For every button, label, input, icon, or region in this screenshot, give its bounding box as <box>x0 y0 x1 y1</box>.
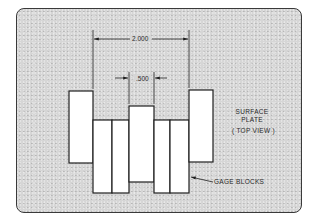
surface-plate-label: SURFACE PLATE ( TOP VIEW ) <box>232 108 272 135</box>
gage-blocks <box>69 90 213 193</box>
top-view-label: ( TOP VIEW ) <box>232 127 272 135</box>
left-outer-block <box>69 91 93 163</box>
right-outer-block <box>189 90 213 162</box>
surface-plate-label-line2: PLATE <box>232 116 272 124</box>
gage-blocks-leader <box>191 177 213 182</box>
right-block-2 <box>170 120 189 193</box>
left-block-3 <box>112 120 129 193</box>
right-block-3 <box>154 120 170 193</box>
surface-plate-label-line1: SURFACE <box>232 108 272 116</box>
gage-block-diagram <box>0 0 320 224</box>
center-block <box>129 106 154 182</box>
dimension-500: .500 <box>134 75 151 82</box>
gage-blocks-label: GAGE BLOCKS <box>214 178 264 186</box>
dimension-2000: 2.000 <box>130 35 150 42</box>
left-block-2 <box>93 120 112 193</box>
